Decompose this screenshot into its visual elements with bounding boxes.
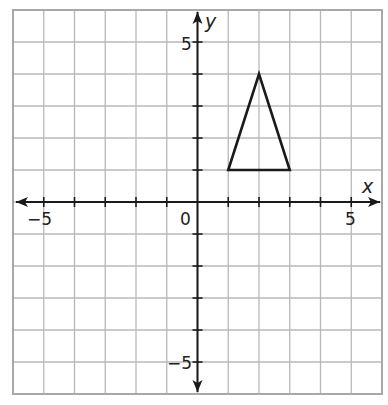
y-axis-label: y xyxy=(204,10,217,32)
x-tick-label-5: 5 xyxy=(345,209,356,229)
axes xyxy=(16,12,380,392)
x-axis-label: x xyxy=(361,175,374,197)
y-tick-label-neg5: −5 xyxy=(167,353,192,373)
x-tick-label-0: 0 xyxy=(180,209,191,229)
x-tick-label-neg5: −5 xyxy=(27,209,52,229)
y-tick-label-5: 5 xyxy=(181,34,192,54)
coordinate-plane: x y −5 0 5 5 −5 xyxy=(0,0,388,405)
